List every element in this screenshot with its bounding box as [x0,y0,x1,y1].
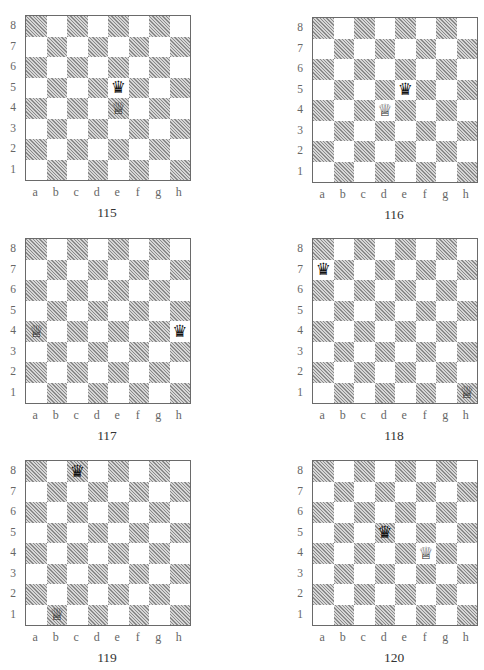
square-g8 [149,16,170,37]
file-label: d [87,186,108,198]
square-h1 [457,162,478,183]
square-e6 [108,502,129,523]
square-f5 [129,301,150,322]
rank-label: 6 [7,284,19,296]
square-b4 [334,321,355,342]
square-a8 [313,461,334,482]
square-h6 [457,280,478,301]
square-d3 [375,342,396,363]
square-e7 [108,37,129,58]
rank-label: 7 [294,43,306,55]
rank-label: 6 [7,61,19,73]
square-a8 [26,239,47,260]
square-a6 [26,57,47,78]
square-c5 [67,78,88,99]
square-d1 [375,383,396,404]
square-f5 [129,523,150,544]
square-d7 [88,482,109,503]
square-g4 [436,543,457,564]
rank-label: 4 [294,325,306,337]
square-h3 [457,342,478,363]
chess-board: ♛♕ [312,460,478,626]
square-g3 [436,121,457,142]
file-label: e [107,631,128,643]
square-g8 [149,461,170,482]
square-b3 [334,564,355,585]
square-a3 [26,342,47,363]
file-labels: abcdefgh [312,188,476,202]
square-c4 [67,543,88,564]
square-c8: ♛ [67,461,88,482]
file-labels: abcdefgh [312,631,476,645]
rank-label: 5 [7,527,19,539]
square-g8 [436,461,457,482]
square-b4 [334,543,355,564]
square-g8 [436,18,457,39]
square-c4 [354,321,375,342]
square-e3 [395,342,416,363]
square-f4 [129,98,150,119]
square-f1 [129,160,150,181]
square-a7: ♛ [313,260,334,281]
square-g4 [436,100,457,121]
square-c2 [354,141,375,162]
square-h2 [170,584,191,605]
square-a3 [313,121,334,142]
file-label: e [394,188,415,200]
square-h3 [457,564,478,585]
rank-label: 1 [7,609,19,621]
square-f1 [129,383,150,404]
file-label: b [46,409,67,421]
square-h2 [457,584,478,605]
square-d1 [375,605,396,626]
square-c4 [67,321,88,342]
square-f8 [129,461,150,482]
rank-label: 3 [7,123,19,135]
square-b7 [47,37,68,58]
square-b8 [47,16,68,37]
square-g6 [149,502,170,523]
square-d8 [375,18,396,39]
square-f6 [129,57,150,78]
square-e5: ♛ [395,80,416,101]
chess-board: ♛♕ [25,460,191,626]
square-c2 [67,362,88,383]
square-b1 [47,160,68,181]
rank-label: 5 [294,84,306,96]
file-labels: abcdefgh [25,186,189,200]
white-queen-icon: ♕ [418,545,433,562]
square-g1 [436,383,457,404]
square-h1 [170,160,191,181]
square-c7 [67,37,88,58]
square-f6 [416,59,437,80]
square-e4: ♕ [108,98,129,119]
rank-label: 4 [294,547,306,559]
square-a6 [313,280,334,301]
square-a1 [26,383,47,404]
rank-label: 6 [7,506,19,518]
square-h1 [457,605,478,626]
square-b4 [47,543,68,564]
rank-label: 1 [7,164,19,176]
file-label: h [456,188,477,200]
square-g8 [149,239,170,260]
rank-label: 2 [294,588,306,600]
square-c1 [67,160,88,181]
square-c7 [354,260,375,281]
square-f4: ♕ [416,543,437,564]
square-c3 [354,564,375,585]
file-label: f [415,409,436,421]
square-b8 [334,239,355,260]
square-e4 [395,100,416,121]
square-d6 [375,59,396,80]
diagram-number: 120 [364,651,424,665]
square-d7 [375,260,396,281]
file-label: e [107,409,128,421]
square-h7 [457,39,478,60]
square-h4 [170,98,191,119]
square-b8 [334,18,355,39]
square-g6 [436,59,457,80]
rank-label: 3 [294,568,306,580]
square-d8 [88,16,109,37]
square-g6 [149,57,170,78]
